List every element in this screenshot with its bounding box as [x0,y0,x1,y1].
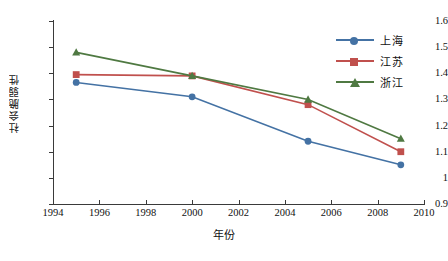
data-point [73,71,80,78]
legend-item-江苏[interactable]: 江苏 [336,50,440,71]
legend-item-上海[interactable]: 上海 [336,29,440,50]
legend-label: 浙江 [374,74,404,90]
data-point [72,48,80,55]
square-marker-icon [350,58,358,66]
data-point [305,138,312,145]
legend-item-浙江[interactable]: 浙江 [336,71,440,92]
data-point [397,161,404,168]
circle-marker-icon [350,37,358,45]
legend-label: 上海 [374,32,404,48]
data-point [73,79,80,86]
series-上海 [73,79,404,168]
triangle-marker-icon [350,78,360,87]
legend-key [336,76,374,88]
data-point [189,93,196,100]
x-axis-title: 年份 [0,226,448,242]
line-chart: 0.911.11.21.31.41.51.6 19941996199820002… [0,0,448,261]
legend-key [336,34,374,46]
series-line [76,82,401,164]
data-point [397,148,404,155]
legend-key [336,55,374,67]
y-axis-title: 社会脆弱性 [7,73,21,133]
legend-label: 江苏 [374,53,404,69]
chart-legend: 上海江苏浙江 [336,29,440,92]
